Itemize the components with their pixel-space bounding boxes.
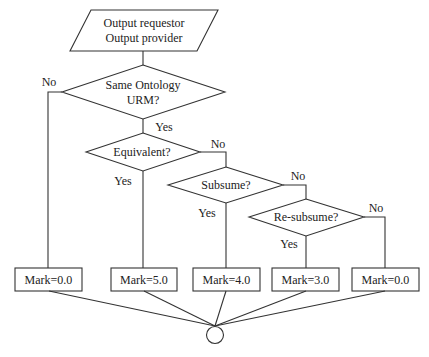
result-1-label: Mark=0.0 [25, 273, 73, 287]
decision-equivalent: Equivalent? [86, 133, 200, 171]
result-box-1: Mark=0.0 [15, 268, 82, 291]
edge-d3-no [283, 185, 306, 199]
decision-subsume: Subsume? [168, 167, 283, 203]
converging-edges [49, 291, 385, 326]
start-line-1: Output requestor [104, 16, 185, 30]
end-circle [207, 327, 224, 344]
label-d1-no: No [42, 75, 57, 89]
label-d2-no: No [211, 137, 226, 151]
label-d3-no: No [291, 169, 306, 183]
decision-re-subsume: Re-subsume? [249, 199, 364, 236]
label-d3-yes: Yes [198, 206, 216, 220]
edge-d4-no [364, 217, 385, 268]
decision-4-label: Re-subsume? [274, 210, 339, 224]
decision-2-label: Equivalent? [113, 145, 170, 159]
decision-1-line-1: Same Ontology [106, 78, 181, 92]
flowchart-diagram: Output requestor Output provider Same On… [0, 0, 429, 357]
decision-1-line-2: URM? [127, 93, 160, 107]
result-3-label: Mark=4.0 [203, 273, 251, 287]
result-box-4: Mark=3.0 [272, 268, 339, 291]
result-4-label: Mark=3.0 [282, 273, 330, 287]
label-d2-yes: Yes [114, 174, 132, 188]
result-5-label: Mark=0.0 [362, 273, 410, 287]
result-box-5: Mark=0.0 [352, 268, 419, 291]
result-box-3: Mark=4.0 [193, 268, 260, 291]
start-line-2: Output provider [106, 31, 183, 45]
decision-same-ontology: Same Ontology URM? [62, 65, 225, 119]
edge-d2-no [200, 152, 226, 167]
edge-d1-no [48, 92, 62, 268]
label-d4-yes: Yes [280, 237, 298, 251]
decision-3-label: Subsume? [201, 178, 250, 192]
start-node: Output requestor Output provider [70, 10, 218, 51]
result-box-2: Mark=5.0 [111, 268, 177, 291]
label-d1-yes: Yes [155, 120, 173, 134]
label-d4-no: No [369, 201, 384, 215]
result-2-label: Mark=5.0 [120, 273, 168, 287]
